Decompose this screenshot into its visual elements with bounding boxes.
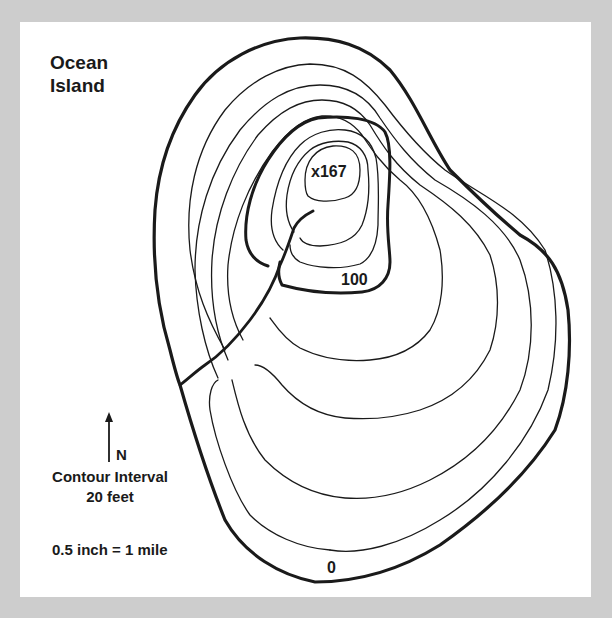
contour-interval-line-1: Contour Interval xyxy=(40,467,180,487)
contour-interval-line-2: 20 feet xyxy=(40,487,180,507)
contour-140 xyxy=(286,141,368,246)
title-line-1: Ocean xyxy=(50,51,108,74)
contour-100-label: 100 xyxy=(341,271,368,289)
title-line-2: Island xyxy=(50,74,108,97)
contour-80 xyxy=(228,116,443,361)
contour-interval-legend: Contour Interval 20 feet xyxy=(40,467,180,507)
north-label: N xyxy=(116,446,127,463)
map-scale: 0.5 inch = 1 mile xyxy=(52,541,167,558)
coastline-label: 0 xyxy=(327,559,336,577)
peak-elevation-label: x167 xyxy=(311,163,347,181)
contour-20 xyxy=(189,64,556,551)
map-title: Ocean Island xyxy=(50,51,108,97)
